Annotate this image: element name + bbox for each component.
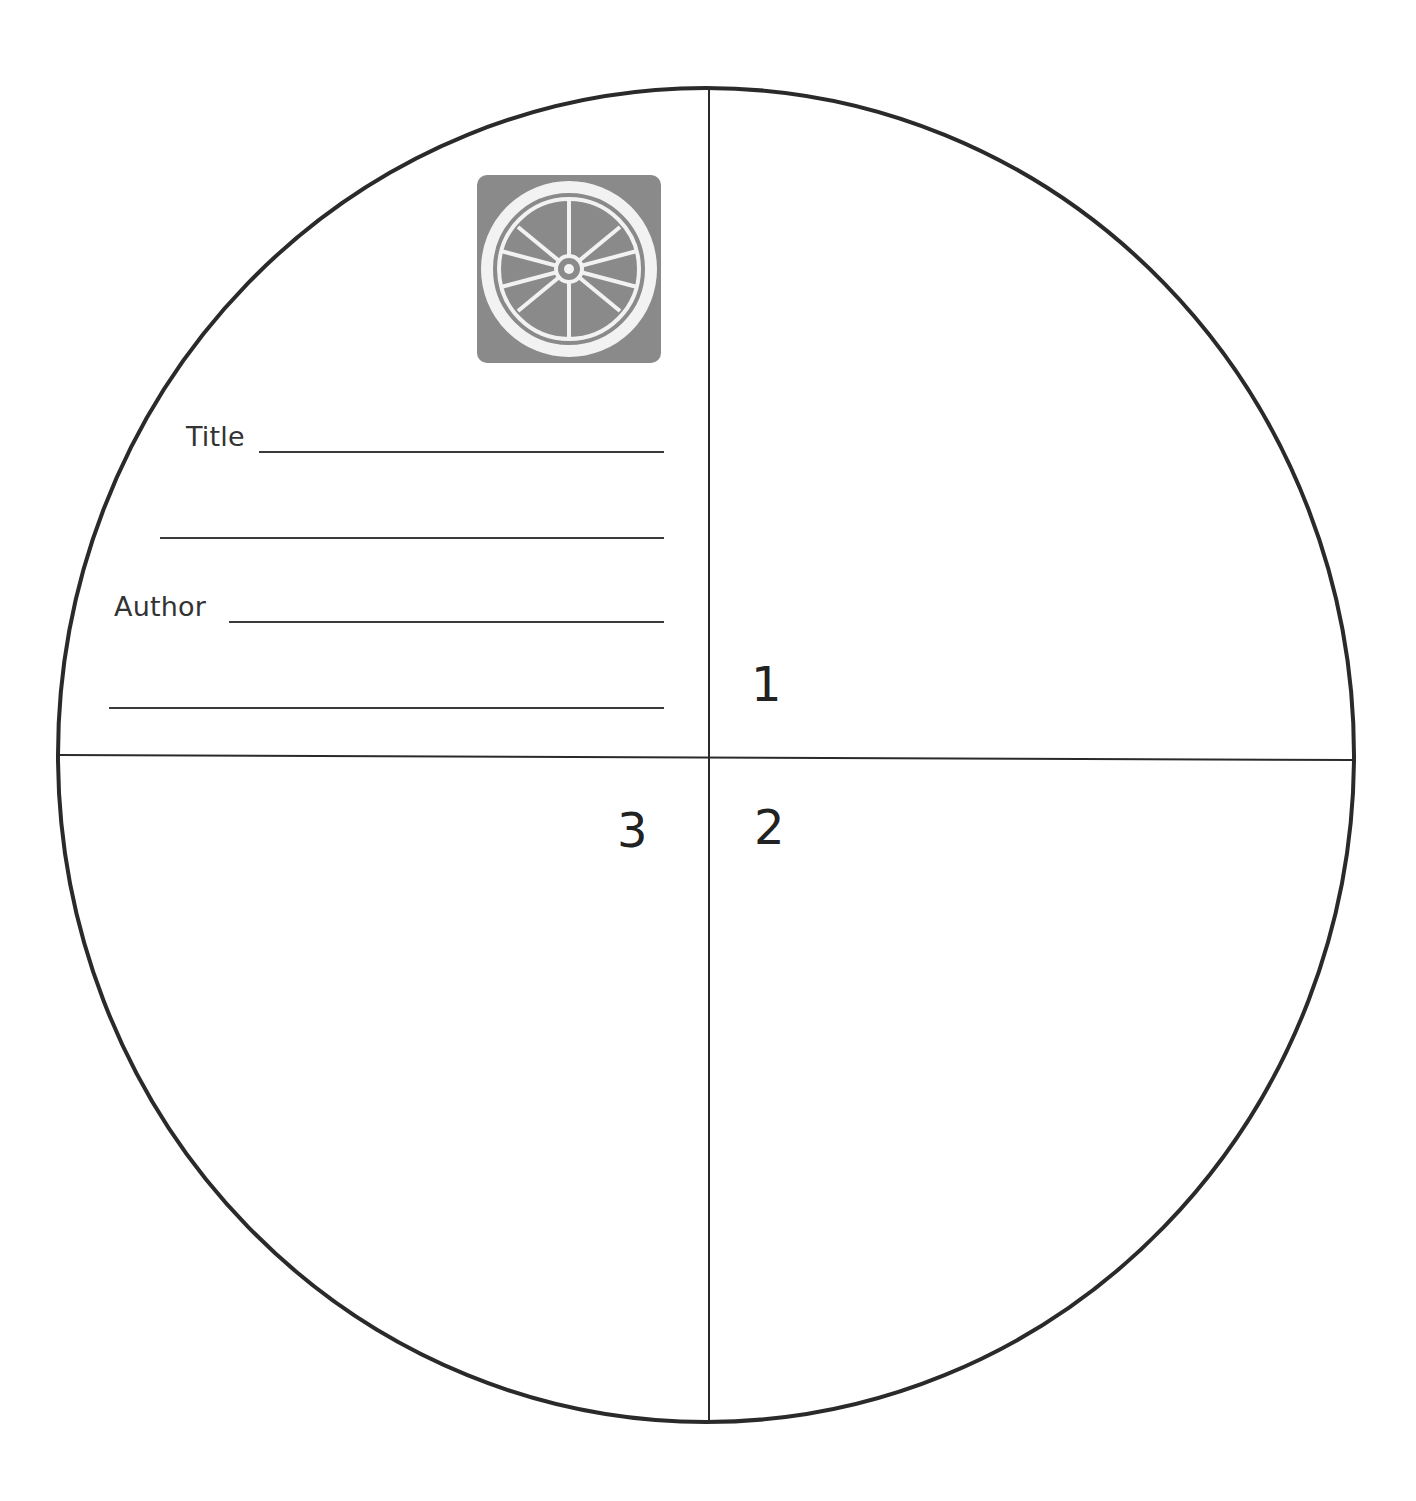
quadrant-number-1: 1 bbox=[751, 660, 782, 708]
quadrant-number-3: 3 bbox=[617, 806, 648, 854]
author-label: Author bbox=[114, 591, 206, 622]
author-continued-field[interactable] bbox=[109, 707, 664, 709]
wagon-wheel-icon bbox=[477, 175, 661, 363]
title-continued-field[interactable] bbox=[160, 537, 664, 539]
author-field[interactable] bbox=[229, 621, 664, 623]
horizontal-divider bbox=[59, 755, 1352, 760]
quadrant-number-2: 2 bbox=[754, 803, 785, 851]
circle-diagram bbox=[0, 0, 1416, 1501]
title-field[interactable] bbox=[259, 451, 664, 453]
title-label: Title bbox=[186, 421, 245, 452]
